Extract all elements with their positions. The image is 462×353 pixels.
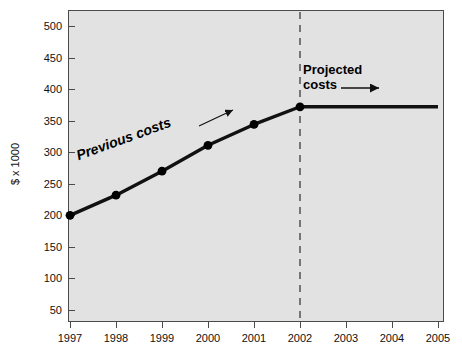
x-tick-mark <box>300 322 301 328</box>
y-axis-title: $ x 1000 <box>9 129 21 199</box>
x-tick-label: 2004 <box>369 332 415 344</box>
y-tick-label: 400 <box>28 84 62 95</box>
x-tick-mark <box>438 322 439 328</box>
y-tick-label: 500 <box>28 21 62 32</box>
x-tick-mark <box>208 322 209 328</box>
x-tick-mark <box>346 322 347 328</box>
y-tick-mark <box>68 152 75 153</box>
x-tick-mark <box>70 322 71 328</box>
y-tick-label: 450 <box>28 52 62 63</box>
x-tick-label: 2005 <box>415 332 461 344</box>
y-tick-mark <box>68 89 75 90</box>
y-axis-tick-labels: 50045040035030025020015010050 <box>22 0 62 353</box>
y-tick-mark <box>68 310 75 311</box>
x-tick-label: 1998 <box>93 332 139 344</box>
x-tick-label: 1997 <box>47 332 93 344</box>
y-tick-mark <box>68 58 75 59</box>
y-tick-mark <box>68 121 75 122</box>
x-tick-label: 1999 <box>139 332 185 344</box>
cost-projection-chart: $ x 1000 50045040035030025020015010050 1… <box>0 0 462 353</box>
y-tick-mark <box>68 278 75 279</box>
y-tick-label: 150 <box>28 241 62 252</box>
projected-costs-line2: costs <box>303 77 362 92</box>
y-tick-label: 200 <box>28 210 62 221</box>
y-tick-label: 300 <box>28 147 62 158</box>
x-tick-label: 2003 <box>323 332 369 344</box>
x-tick-label: 2002 <box>277 332 323 344</box>
x-tick-label: 2001 <box>231 332 277 344</box>
y-tick-label: 250 <box>28 178 62 189</box>
y-tick-mark <box>68 184 75 185</box>
projected-costs-annotation: Projected costs <box>303 62 362 92</box>
x-tick-mark <box>162 322 163 328</box>
y-tick-mark <box>68 26 75 27</box>
y-tick-mark <box>68 247 75 248</box>
x-tick-mark <box>392 322 393 328</box>
y-tick-label: 350 <box>28 115 62 126</box>
plot-area <box>68 10 444 322</box>
y-tick-mark <box>68 215 75 216</box>
y-tick-label: 50 <box>28 305 62 316</box>
x-tick-mark <box>254 322 255 328</box>
projected-costs-line1: Projected <box>303 62 362 77</box>
x-tick-mark <box>116 322 117 328</box>
x-tick-label: 2000 <box>185 332 231 344</box>
y-tick-label: 100 <box>28 273 62 284</box>
